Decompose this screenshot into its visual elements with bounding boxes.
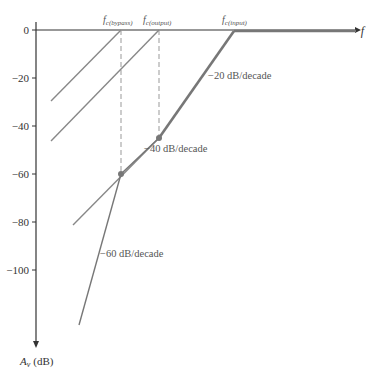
slope-40-label: −40 dB/decade	[144, 143, 208, 154]
fc-output-label: fc(output)	[143, 14, 172, 27]
bode-plot: 0 −20 −40 −60 −80 −100 fc(bypass) fc(out…	[0, 0, 367, 378]
y-axis-label: Av(dB)	[19, 355, 54, 369]
y-tick-40: −40	[12, 120, 30, 132]
slope-60-label: −60 dB/decade	[100, 248, 164, 259]
bypass-asymptote	[51, 30, 121, 101]
y-axis-arrow-icon	[33, 341, 39, 348]
y-tick-60: −60	[12, 168, 30, 180]
y-tick-80: −80	[12, 216, 30, 228]
break-point-output	[156, 135, 162, 141]
x-axis-label: f	[361, 24, 366, 38]
response-20db	[159, 31, 234, 138]
y-tick-0: 0	[24, 24, 30, 36]
break-point-bypass	[118, 171, 124, 177]
y-tick-20: −20	[12, 72, 30, 84]
y-tick-100: −100	[6, 264, 29, 276]
slope-20-label: −20 dB/decade	[208, 70, 272, 81]
fc-bypass-label: fc(bypass)	[103, 14, 133, 27]
fc-input-label: fc(input)	[222, 14, 248, 27]
